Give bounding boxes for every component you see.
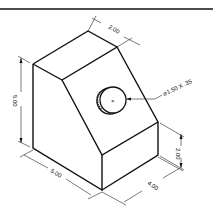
block-outline [33, 31, 158, 190]
dim-height-total-label: 5.00 [12, 95, 18, 107]
dim-depth-base-label: 4.00 [146, 180, 160, 192]
hole-feature: × [97, 87, 126, 114]
dim-height-step [160, 123, 184, 170]
dim-height-step-label: 2.00 [175, 148, 181, 160]
center-mark-icon: × [111, 98, 115, 104]
isometric-drawing: × ⌀1.50 X .35 2.00 5.00 5.00 4.00 [0, 0, 213, 215]
hole-callout-label: ⌀1.50 X .35 [162, 78, 194, 97]
dim-height-total [18, 56, 30, 147]
dim-top-depth-label: 2.00 [108, 24, 122, 35]
dim-width-front-label: 5.00 [50, 168, 64, 179]
